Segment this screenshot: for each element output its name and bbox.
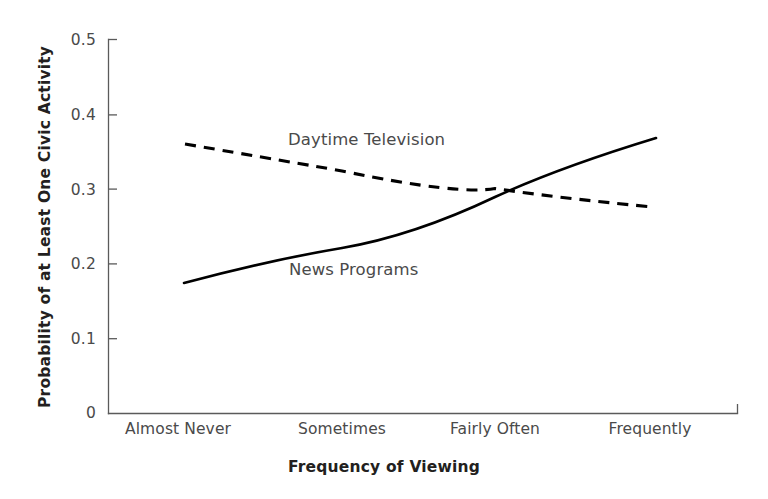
x-tick-label-sometimes: Sometimes — [272, 420, 412, 438]
series-line-news-programs — [184, 138, 656, 283]
x-tick-label-almost-never: Almost Never — [98, 420, 258, 438]
y-tick-label-1: 0.4 — [52, 106, 96, 124]
y-tick-label-3: 0.2 — [52, 255, 96, 273]
y-tick-label-0: 0.5 — [52, 31, 96, 49]
y-tick-label-4: 0.1 — [52, 330, 96, 348]
y-axis-title: Probability of at Least One Civic Activi… — [36, 46, 54, 408]
series-label-news-programs: News Programs — [289, 260, 418, 279]
series-label-daytime-television: Daytime Television — [288, 130, 445, 149]
y-axis-ticks — [109, 115, 118, 339]
y-tick-label-5: 0 — [52, 404, 96, 422]
series-line-daytime-television — [185, 144, 653, 207]
x-tick-label-frequently: Frequently — [580, 420, 720, 438]
chart-figure: 0.5 0.4 0.3 0.2 0.1 0 Almost Never Somet… — [0, 0, 768, 499]
x-tick-label-fairly-often: Fairly Often — [425, 420, 565, 438]
x-axis-title: Frequency of Viewing — [0, 458, 768, 476]
y-tick-label-2: 0.3 — [52, 181, 96, 199]
